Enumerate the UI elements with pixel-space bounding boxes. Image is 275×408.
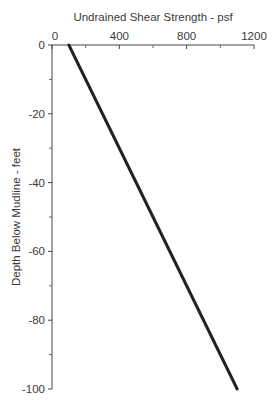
y-axis-label: Depth Below Mudline - feet [10, 147, 22, 286]
x-tick-labels: 04008001200 [52, 30, 267, 42]
x-axis-label: Undrained Shear Strength - psf [73, 11, 233, 23]
strength-profile-line [69, 45, 237, 389]
y-tick-label: -80 [28, 314, 45, 326]
x-tick-label: 800 [177, 30, 196, 42]
y-tick-labels: 0-20-40-60-80-100 [22, 39, 45, 395]
axis-ticks [48, 45, 254, 389]
x-tick-label: 1200 [241, 30, 267, 42]
y-tick-label: -60 [28, 245, 45, 257]
x-tick-label: 0 [52, 30, 58, 42]
x-tick-label: 400 [110, 30, 129, 42]
shear-strength-chart: Undrained Shear Strength - psf 040080012… [0, 0, 275, 408]
y-tick-label: -20 [28, 108, 45, 120]
y-tick-label: -40 [28, 177, 45, 189]
y-tick-label: -100 [22, 383, 45, 395]
y-tick-label: 0 [39, 39, 45, 51]
